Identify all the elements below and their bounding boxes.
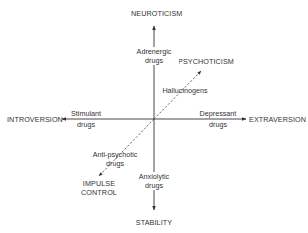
hallucinogens-label: Hallucinogens (162, 86, 208, 95)
psychoticism-label: PSYCHOTICISM (178, 57, 230, 66)
stimulant-drugs-text: drugs (66, 120, 106, 129)
depressant-drugs-label: Depressant drugs (197, 109, 239, 129)
stability-label: STABILITY (134, 218, 174, 227)
anti-psychotic-drugs-label: Anti-psychotic drugs (90, 150, 140, 168)
adrenergic-text: Adrenergic (129, 47, 179, 56)
anxiolytic-drugs-text: drugs (134, 181, 174, 190)
anti-psychotic-drugs-text: drugs (90, 159, 140, 168)
diagonal-axis-up (154, 71, 201, 119)
impulse-label: IMPULSE (80, 179, 118, 188)
control-label: CONTROL (80, 188, 118, 197)
extraversion-label: EXTRAVERSION (249, 115, 301, 124)
anti-psychotic-text: Anti-psychotic (90, 150, 140, 159)
adrenergic-drugs-text: drugs (129, 56, 179, 65)
anxiolytic-text: Anxiolytic (134, 172, 174, 181)
impulse-control-label: IMPULSE CONTROL (80, 179, 118, 197)
depressant-drugs-text: drugs (197, 120, 239, 129)
neuroticism-label: NEUROTICISM (131, 9, 177, 18)
introversion-label: INTROVERSION (7, 115, 60, 124)
depressant-text: Depressant (197, 109, 239, 118)
stimulant-text: Stimulant (66, 109, 106, 118)
anxiolytic-drugs-label: Anxiolytic drugs (134, 172, 174, 190)
adrenergic-drugs-label: Adrenergic drugs (129, 47, 179, 65)
stimulant-drugs-label: Stimulant drugs (66, 109, 106, 129)
